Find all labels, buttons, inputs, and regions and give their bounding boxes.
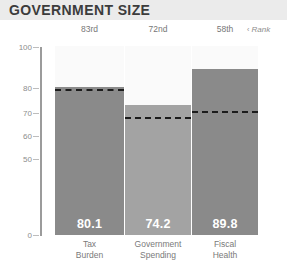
y-tick-label-0: 0	[10, 231, 32, 240]
y-tick-mark-0	[33, 235, 39, 236]
bar-value-label-1: 74.2	[125, 217, 191, 231]
y-axis-spine	[40, 47, 42, 236]
bar-group-government-spending[interactable]: 74.2	[125, 46, 191, 235]
bar-value-label-0: 80.1	[55, 217, 124, 231]
bar-value-label-2: 89.8	[192, 217, 258, 231]
rank-legend-label: Rank	[252, 25, 271, 34]
rank-label-1: 72nd	[125, 24, 191, 34]
x-axis-label-fiscal-health-line1: Fiscal	[192, 239, 258, 250]
y-axis-tick-labels: 100 80 70 60 50 0	[8, 0, 32, 271]
x-axis-label-government-spending-line1: Government	[122, 239, 194, 250]
reference-line-1	[125, 117, 191, 119]
y-tick-label-60: 60	[10, 132, 32, 141]
y-tick-mark-80	[33, 88, 39, 89]
bar-fill-0[interactable]	[55, 87, 124, 235]
x-axis-label-fiscal-health-line2: Health	[192, 250, 258, 261]
rank-legend: ‹ Rank	[247, 25, 270, 34]
x-axis-label-government-spending-line2: Spending	[122, 250, 194, 261]
y-tick-mark-70	[33, 113, 39, 114]
x-axis-label-government-spending: Government Spending	[122, 239, 194, 260]
x-axis-label-fiscal-health: Fiscal Health	[192, 239, 258, 260]
bar-group-tax-burden[interactable]: 80.1	[55, 46, 124, 235]
reference-line-2	[192, 111, 258, 113]
x-axis-label-tax-burden: Tax Burden	[55, 239, 124, 260]
bar-chart: 83rd 72nd 58th ‹ Rank 100 80 70 60 50 0 …	[0, 0, 287, 271]
y-tick-label-70: 70	[10, 109, 32, 118]
rank-label-0: 83rd	[55, 24, 124, 34]
x-axis-label-tax-burden-line2: Burden	[55, 250, 124, 261]
y-tick-mark-60	[33, 136, 39, 137]
y-tick-label-100: 100	[10, 43, 32, 52]
y-tick-mark-50	[33, 159, 39, 160]
y-tick-label-50: 50	[10, 155, 32, 164]
x-axis-label-tax-burden-line1: Tax	[55, 239, 124, 250]
bar-group-fiscal-health[interactable]: 89.8	[192, 46, 258, 235]
y-tick-label-80: 80	[10, 84, 32, 93]
caret-left-icon: ‹	[247, 26, 249, 33]
reference-line-0	[55, 89, 124, 91]
y-tick-mark-100	[33, 47, 39, 48]
bar-fill-2[interactable]	[192, 69, 258, 235]
bar-fill-1[interactable]	[125, 105, 191, 235]
